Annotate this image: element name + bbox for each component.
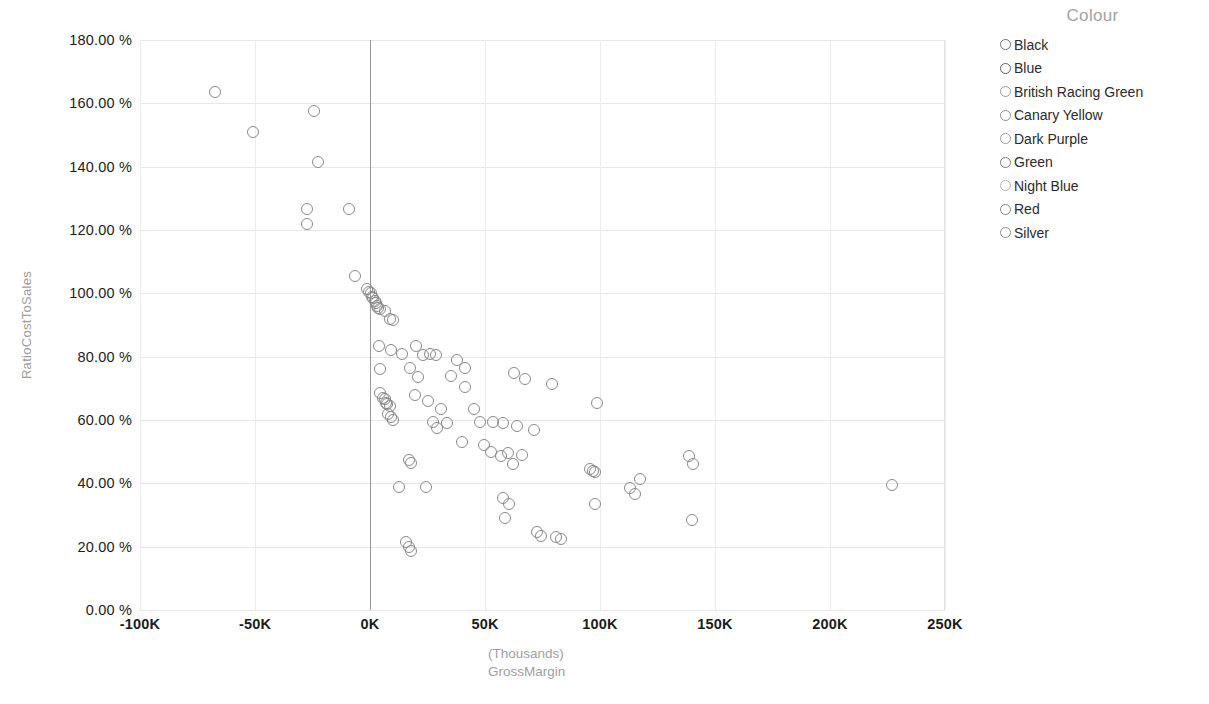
- legend-item[interactable]: British Racing Green: [1000, 80, 1205, 104]
- gridline-vertical: [715, 40, 716, 610]
- data-point[interactable]: [420, 481, 432, 493]
- x-axis-title-units: (Thousands): [488, 645, 565, 663]
- legend-item[interactable]: Canary Yellow: [1000, 104, 1205, 128]
- legend-item-label: Black: [1014, 38, 1048, 52]
- legend-item[interactable]: Green: [1000, 151, 1205, 175]
- legend-marker-circle-icon: [1000, 180, 1011, 191]
- data-point[interactable]: [474, 416, 486, 428]
- data-point[interactable]: [308, 105, 320, 117]
- x-axis-tick-label: -100K: [120, 616, 161, 632]
- data-point[interactable]: [555, 533, 567, 545]
- gridline-horizontal: [140, 167, 945, 168]
- data-point[interactable]: [508, 367, 520, 379]
- gridline-horizontal: [140, 483, 945, 484]
- data-point[interactable]: [387, 414, 399, 426]
- data-point[interactable]: [393, 481, 405, 493]
- legend-marker-circle-icon: [1000, 227, 1011, 238]
- legend-marker-circle-icon: [1000, 133, 1011, 144]
- legend-item[interactable]: Black: [1000, 33, 1205, 57]
- legend-marker-circle-icon: [1000, 157, 1011, 168]
- gridline-horizontal: [140, 357, 945, 358]
- y-axis-title: RatioCostToSales: [19, 271, 34, 379]
- legend-items: BlackBlueBritish Racing GreenCanary Yell…: [1000, 33, 1205, 245]
- gridline-horizontal: [140, 610, 945, 611]
- data-point[interactable]: [591, 397, 603, 409]
- legend-marker-circle-icon: [1000, 204, 1011, 215]
- y-axis-tick-label: 100.00 %: [69, 285, 132, 301]
- data-point[interactable]: [468, 403, 480, 415]
- gridline-vertical: [945, 40, 946, 610]
- legend-marker-circle-icon: [1000, 39, 1011, 50]
- data-point[interactable]: [445, 370, 457, 382]
- data-point[interactable]: [349, 270, 361, 282]
- data-point[interactable]: [499, 512, 511, 524]
- legend-item-label: Dark Purple: [1014, 132, 1088, 146]
- legend-item[interactable]: Blue: [1000, 57, 1205, 81]
- y-axis-tick-label: 160.00 %: [69, 95, 132, 111]
- legend-item[interactable]: Dark Purple: [1000, 127, 1205, 151]
- gridline-vertical: [485, 40, 486, 610]
- legend-title: Colour: [1000, 6, 1185, 26]
- x-axis-tick-labels: -100K-50K0K50K100K150K200K250K: [140, 616, 945, 640]
- x-axis-tick-label: 50K: [471, 616, 498, 632]
- x-axis-tick-label: 0K: [361, 616, 380, 632]
- data-point[interactable]: [528, 424, 540, 436]
- x-axis-tick-label: 150K: [697, 616, 732, 632]
- legend: Colour BlackBlueBritish Racing GreenCana…: [1000, 6, 1205, 245]
- y-axis-tick-label: 60.00 %: [77, 412, 132, 428]
- plot-area: [140, 40, 945, 610]
- scatter-chart: 0.00 %20.00 %40.00 %60.00 %80.00 %100.00…: [0, 0, 1209, 704]
- legend-item-label: Blue: [1014, 61, 1042, 75]
- legend-item-label: Green: [1014, 155, 1053, 169]
- data-point[interactable]: [396, 348, 408, 360]
- legend-item-label: Silver: [1014, 226, 1049, 240]
- legend-item-label: British Racing Green: [1014, 85, 1143, 99]
- legend-item-label: Night Blue: [1014, 179, 1079, 193]
- gridline-vertical: [600, 40, 601, 610]
- data-point[interactable]: [422, 395, 434, 407]
- data-point[interactable]: [516, 449, 528, 461]
- data-point[interactable]: [430, 349, 442, 361]
- data-point[interactable]: [634, 473, 646, 485]
- data-point[interactable]: [409, 389, 421, 401]
- data-point[interactable]: [535, 530, 547, 542]
- gridline-vertical: [140, 40, 141, 610]
- legend-item-label: Red: [1014, 202, 1040, 216]
- data-point[interactable]: [507, 458, 519, 470]
- x-axis-tick-label: -50K: [239, 616, 271, 632]
- x-axis-tick-label: 250K: [927, 616, 962, 632]
- data-point[interactable]: [385, 344, 397, 356]
- gridline-horizontal: [140, 103, 945, 104]
- legend-item[interactable]: Red: [1000, 198, 1205, 222]
- plot-border: [140, 40, 945, 610]
- data-point[interactable]: [686, 514, 698, 526]
- y-axis-tick-label: 20.00 %: [77, 539, 132, 555]
- x-axis-tick-label: 100K: [582, 616, 617, 632]
- data-point[interactable]: [629, 488, 641, 500]
- y-axis-tick-label: 80.00 %: [77, 349, 132, 365]
- y-axis-tick-label: 140.00 %: [69, 159, 132, 175]
- legend-marker-circle-icon: [1000, 63, 1011, 74]
- data-point[interactable]: [546, 378, 558, 390]
- x-axis-tick-label: 200K: [812, 616, 847, 632]
- gridline-horizontal: [140, 293, 945, 294]
- y-axis-tick-label: 180.00 %: [69, 32, 132, 48]
- gridline-horizontal: [140, 420, 945, 421]
- data-point[interactable]: [373, 340, 385, 352]
- legend-item[interactable]: Silver: [1000, 221, 1205, 245]
- data-point[interactable]: [247, 126, 259, 138]
- legend-item-label: Canary Yellow: [1014, 108, 1103, 122]
- data-point[interactable]: [431, 422, 443, 434]
- data-point[interactable]: [519, 373, 531, 385]
- data-point[interactable]: [503, 498, 515, 510]
- y-axis-tick-label: 40.00 %: [77, 475, 132, 491]
- gridline-horizontal: [140, 547, 945, 548]
- data-point[interactable]: [301, 218, 313, 230]
- gridline-vertical: [830, 40, 831, 610]
- legend-item[interactable]: Night Blue: [1000, 174, 1205, 198]
- data-point[interactable]: [886, 479, 898, 491]
- data-point[interactable]: [209, 86, 221, 98]
- legend-marker-circle-icon: [1000, 86, 1011, 97]
- zero-reference-line: [370, 40, 371, 610]
- gridline-horizontal: [140, 40, 945, 41]
